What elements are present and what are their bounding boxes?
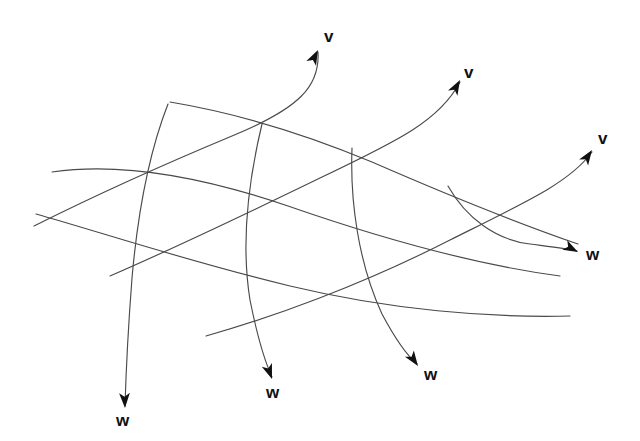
v-arrow-1 (306, 48, 322, 66)
arrow-heads-layer (119, 48, 596, 409)
label-w-3: w (424, 366, 437, 383)
v-family-curves (34, 52, 592, 336)
w-arrow-4 (562, 240, 580, 257)
figure-canvas: v v v w w w w (0, 0, 640, 441)
u-curve-1 (170, 102, 578, 244)
label-v-2: v (464, 64, 473, 81)
v-arrow-3 (579, 147, 596, 165)
label-v-1: v (324, 28, 333, 45)
w-curve-3 (352, 148, 417, 364)
w-curve-1 (125, 104, 168, 406)
label-w-1: w (116, 412, 129, 429)
w-family-curves (125, 104, 577, 406)
u-curve-3 (36, 214, 570, 316)
w-arrow-1 (119, 393, 130, 408)
label-v-3: v (598, 130, 607, 147)
w-curve-4 (448, 186, 577, 251)
curvilinear-grid-svg (0, 0, 640, 441)
w-arrow-2 (262, 363, 277, 381)
v-curve-2 (110, 82, 460, 276)
u-family-curves (36, 102, 578, 316)
v-arrow-2 (448, 77, 465, 95)
w-curve-2 (246, 124, 272, 377)
label-w-2: w (266, 384, 279, 401)
label-w-4: w (586, 246, 599, 263)
